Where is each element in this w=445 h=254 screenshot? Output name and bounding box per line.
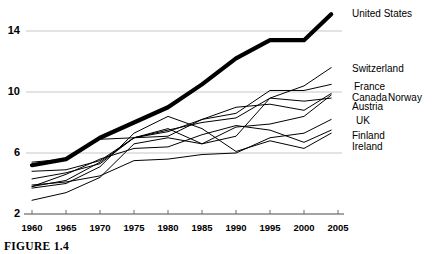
x-axis-tick-labels: 1960196519701975198019851990199520002005	[21, 222, 349, 233]
x-tick-label: 1960	[21, 222, 42, 233]
x-tick-label: 1995	[259, 222, 281, 233]
x-tick-label: 1965	[55, 222, 77, 233]
series-label-france: France	[354, 81, 386, 92]
x-tick-label: 2005	[327, 222, 349, 233]
y-tick-label: 6	[14, 146, 20, 158]
series-label-austria: Austria	[352, 101, 384, 112]
x-axis-tickmarks	[32, 210, 338, 214]
series-label-united-states: United States	[352, 8, 412, 19]
x-tick-label: 1990	[225, 222, 246, 233]
series-line	[32, 14, 331, 165]
line-chart: 261014 196019651970197519801985199019952…	[0, 0, 445, 254]
figure-container: 261014 196019651970197519801985199019952…	[0, 0, 445, 254]
series-label-finland: Finland	[352, 130, 385, 141]
series-labels: United StatesSwitzerlandFranceCanadaNorw…	[352, 8, 422, 152]
y-tick-label: 14	[8, 24, 21, 36]
data-series-lines	[32, 14, 331, 200]
series-line	[32, 68, 331, 172]
x-tick-label: 1985	[191, 222, 213, 233]
series-label-norway: Norway	[388, 92, 422, 103]
series-label-ireland: Ireland	[352, 141, 383, 152]
figure-caption: FIGURE 1.4	[4, 240, 69, 252]
y-tick-label: 10	[8, 85, 20, 97]
x-tick-label: 1980	[157, 222, 178, 233]
x-tick-label: 1970	[89, 222, 110, 233]
series-line	[32, 95, 331, 200]
x-tick-label: 2000	[293, 222, 314, 233]
series-label-switzerland: Switzerland	[352, 63, 404, 74]
y-tick-label: 2	[14, 207, 20, 219]
y-axis-tick-labels: 261014	[8, 24, 21, 219]
series-label-uk: UK	[356, 115, 370, 126]
x-tick-label: 1975	[123, 222, 145, 233]
